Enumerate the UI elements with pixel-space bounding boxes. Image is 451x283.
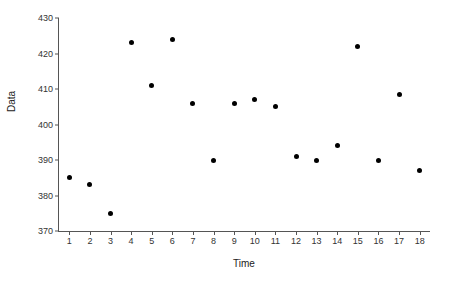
x-tick-label: 3 — [108, 237, 113, 246]
data-point — [252, 97, 257, 102]
x-tick-label: 17 — [394, 237, 404, 246]
x-tick-label: 8 — [211, 237, 216, 246]
data-point — [232, 101, 237, 106]
data-point — [149, 83, 154, 88]
x-tick-mark — [111, 231, 112, 235]
x-tick-label: 6 — [170, 237, 175, 246]
y-tick-mark — [55, 53, 59, 54]
x-tick-label: 7 — [190, 237, 195, 246]
x-tick-mark — [131, 231, 132, 235]
y-tick-mark — [55, 160, 59, 161]
data-point — [87, 182, 92, 187]
x-tick-label: 5 — [149, 237, 154, 246]
x-tick-mark — [90, 231, 91, 235]
y-tick-mark — [55, 124, 59, 125]
x-tick-label: 14 — [332, 237, 342, 246]
x-axis-title: Time — [58, 258, 430, 269]
x-tick-label: 15 — [353, 237, 363, 246]
x-tick-mark — [317, 231, 318, 235]
x-tick-mark — [378, 231, 379, 235]
x-tick-mark — [172, 231, 173, 235]
x-tick-label: 11 — [271, 237, 280, 246]
data-point — [108, 211, 113, 216]
data-point — [294, 154, 299, 159]
data-point — [376, 158, 381, 163]
data-point — [397, 92, 402, 97]
y-tick-mark — [55, 195, 59, 196]
y-tick-mark — [55, 231, 59, 232]
scatter-chart: 370380390400410420430 123456789101112131… — [0, 0, 451, 283]
x-tick-mark — [234, 231, 235, 235]
data-point — [335, 143, 340, 148]
data-point — [355, 44, 360, 49]
data-point — [190, 101, 195, 106]
x-tick-label: 4 — [129, 237, 134, 246]
x-tick-label: 18 — [415, 237, 425, 246]
plot-area: 370380390400410420430 123456789101112131… — [58, 18, 430, 232]
data-point — [273, 104, 278, 109]
data-point — [417, 168, 422, 173]
x-tick-mark — [275, 231, 276, 235]
y-axis-title: Data — [6, 91, 17, 112]
y-tick-mark — [55, 89, 59, 90]
x-tick-label: 12 — [291, 237, 301, 246]
x-tick-mark — [399, 231, 400, 235]
x-tick-label: 13 — [312, 237, 322, 246]
x-tick-mark — [358, 231, 359, 235]
x-tick-mark — [214, 231, 215, 235]
x-tick-mark — [152, 231, 153, 235]
x-tick-mark — [193, 231, 194, 235]
y-tick-mark — [55, 18, 59, 19]
data-point — [314, 158, 319, 163]
x-tick-mark — [420, 231, 421, 235]
data-point — [67, 175, 72, 180]
data-point — [129, 40, 134, 45]
x-tick-mark — [69, 231, 70, 235]
x-tick-mark — [255, 231, 256, 235]
x-tick-mark — [296, 231, 297, 235]
data-point — [211, 158, 216, 163]
x-tick-label: 16 — [373, 237, 383, 246]
x-tick-label: 10 — [250, 237, 260, 246]
x-tick-mark — [337, 231, 338, 235]
x-tick-label: 9 — [232, 237, 237, 246]
data-point — [170, 37, 175, 42]
x-tick-label: 1 — [67, 237, 72, 246]
x-tick-label: 2 — [87, 237, 92, 246]
